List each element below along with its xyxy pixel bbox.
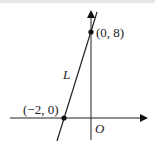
point-label-0-8: (0, 8) (96, 25, 124, 40)
point-label-neg2-0: (−2, 0) (23, 102, 59, 117)
point-neg2-0 (61, 115, 66, 120)
origin-label: O (95, 121, 105, 136)
point-0-8 (88, 29, 93, 34)
coordinate-diagram: (0, 8) (−2, 0) L O (0, 0, 155, 149)
line-label: L (62, 67, 70, 82)
